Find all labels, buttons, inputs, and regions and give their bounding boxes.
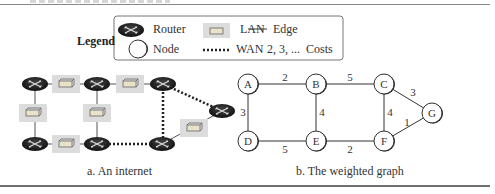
lan-icon (180, 119, 208, 137)
router-icon (118, 23, 144, 37)
node-label-g: G (428, 107, 436, 119)
cost-label: 5 (347, 71, 353, 83)
legend-label-lan: LAN (240, 22, 265, 37)
lan-icon (52, 75, 80, 93)
node-circle-icon (129, 40, 148, 58)
router-icon (22, 137, 48, 151)
lan-icon (83, 104, 111, 122)
legend-label-node: Node (153, 42, 179, 57)
router-icon (84, 137, 110, 151)
cost-label: 2 (282, 71, 288, 83)
cost-label: 3 (410, 86, 416, 98)
legend-title: Legend (77, 34, 115, 49)
graph-edges (248, 84, 432, 141)
node-label-b: B (312, 78, 319, 90)
cost-label: 1 (404, 116, 410, 128)
lan-icon (52, 135, 80, 153)
cost-label: 5 (282, 143, 288, 155)
lan-icon (19, 104, 47, 122)
lan-icon (116, 75, 144, 93)
bottom-divider (0, 185, 490, 187)
legend-label-wan: WAN (236, 42, 263, 57)
legend-label-costs: 2, 3, ... Costs (267, 42, 333, 57)
cost-label: 2 (347, 143, 353, 155)
caption-weighted-graph: b. The weighted graph (296, 164, 404, 179)
cost-label: 4 (387, 106, 393, 118)
router-icon (209, 104, 235, 118)
legend-label-edge: Edge (273, 22, 298, 37)
router-icon (150, 77, 176, 91)
node-label-e: E (313, 135, 320, 147)
router-icon (149, 137, 175, 151)
node-label-d: D (244, 135, 252, 147)
cost-label: 4 (319, 106, 325, 118)
node-label-c: C (380, 78, 387, 90)
caption-internet: a. An internet (87, 164, 152, 179)
legend-label-router: Router (153, 22, 186, 37)
router-icon (22, 77, 48, 91)
node-label-f: F (381, 135, 387, 147)
node-label-a: A (244, 78, 252, 90)
router-icon (84, 77, 110, 91)
cost-label: 3 (240, 106, 246, 118)
